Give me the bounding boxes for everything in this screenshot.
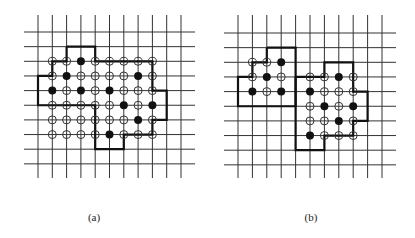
filled-point-icon	[277, 58, 285, 66]
filled-point-icon	[106, 131, 114, 139]
filled-point-icon	[134, 116, 142, 124]
panel-a-caption: (a)	[88, 211, 100, 223]
filled-point-icon	[63, 72, 71, 80]
filled-point-icon	[77, 57, 85, 65]
filled-point-icon	[248, 88, 256, 96]
region-boundary	[38, 47, 167, 150]
panel-b-caption: (b)	[305, 211, 318, 223]
filled-point-icon	[48, 87, 56, 95]
figure-canvas	[0, 0, 415, 238]
filled-point-icon	[148, 101, 156, 109]
filled-point-icon	[277, 88, 285, 96]
filled-point-icon	[120, 101, 128, 109]
filled-point-icon	[134, 72, 142, 80]
filled-point-icon	[335, 117, 343, 125]
filled-point-icon	[320, 102, 328, 110]
filled-point-icon	[306, 132, 314, 140]
filled-point-icon	[263, 73, 271, 81]
filled-point-icon	[306, 88, 314, 96]
panel-a-grid-diagram	[24, 15, 195, 178]
filled-point-icon	[349, 102, 357, 110]
filled-point-icon	[77, 87, 85, 95]
filled-point-icon	[106, 87, 114, 95]
filled-point-icon	[335, 73, 343, 81]
panel-b-grid-diagram	[224, 15, 396, 178]
